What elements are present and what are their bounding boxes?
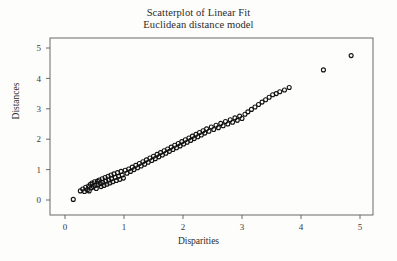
scatter-point	[219, 121, 223, 125]
data-points	[71, 54, 353, 202]
scatter-point	[235, 118, 239, 122]
scatter-point	[205, 127, 209, 131]
plot-area: 012345 012345	[0, 0, 397, 261]
x-tick-label: 5	[358, 222, 363, 232]
scatter-point	[231, 120, 235, 124]
scatter-point	[233, 116, 237, 120]
y-tick-label: 3	[37, 104, 42, 114]
scatterplot-figure: Scatterplot of Linear Fit Euclidean dist…	[0, 0, 397, 261]
scatter-point	[223, 120, 227, 124]
x-tick-label: 3	[240, 222, 245, 232]
scatter-point	[212, 127, 216, 131]
x-tick-label: 4	[299, 222, 304, 232]
scatter-point	[238, 114, 242, 118]
y-tick-label: 4	[37, 74, 42, 84]
y-tick-label: 2	[37, 134, 42, 144]
scatter-point	[228, 118, 232, 122]
scatter-point	[282, 88, 286, 92]
scatter-point	[278, 90, 282, 94]
x-tick-label: 1	[122, 222, 127, 232]
x-tick-label: 2	[181, 222, 186, 232]
scatter-point	[214, 123, 218, 127]
scatter-point	[349, 54, 353, 58]
scatter-point	[221, 124, 225, 128]
scatter-point	[209, 125, 213, 129]
y-tick-label: 0	[37, 195, 42, 205]
scatter-point	[207, 129, 211, 133]
scatter-point	[287, 86, 291, 90]
y-tick-label: 1	[37, 165, 42, 175]
y-tick-label: 5	[37, 43, 42, 53]
y-axis-ticks: 012345	[37, 43, 51, 205]
scatter-point	[226, 122, 230, 126]
scatter-point	[71, 197, 75, 201]
x-axis-ticks: 012345	[63, 215, 363, 232]
x-tick-label: 0	[63, 222, 68, 232]
scatter-point	[240, 117, 244, 121]
scatter-point	[216, 126, 220, 130]
scatter-point	[321, 68, 325, 72]
